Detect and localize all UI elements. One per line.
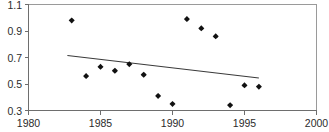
y-tick-marks <box>25 5 29 111</box>
data-point-1984 <box>83 73 89 79</box>
data-point-1996 <box>256 84 262 90</box>
data-point-1993 <box>213 33 219 39</box>
y-tick-label-1.1: 1.1 <box>7 0 22 11</box>
data-point-1986 <box>112 68 118 74</box>
scatter-chart: 1.1 0.9 0.7 0.5 0.3 1980 1985 1990 1995 … <box>0 0 329 132</box>
data-point-1990 <box>170 101 176 107</box>
data-point-1989 <box>155 93 161 99</box>
x-tick-label-1995: 1995 <box>233 117 257 129</box>
data-point-1994 <box>227 102 233 108</box>
x-tick-label-1985: 1985 <box>89 117 113 129</box>
y-tick-labels: 1.1 0.9 0.7 0.5 0.3 <box>7 0 22 117</box>
x-tick-labels: 1980 1985 1990 1995 2000 <box>17 117 329 129</box>
data-point-1983 <box>69 17 75 23</box>
y-tick-label-0.5: 0.5 <box>7 78 22 90</box>
data-point-1991 <box>184 16 190 22</box>
x-tick-label-1990: 1990 <box>161 117 185 129</box>
trend-line <box>67 56 259 79</box>
x-tick-label-1980: 1980 <box>17 117 41 129</box>
y-tick-label-0.7: 0.7 <box>7 52 22 64</box>
data-point-1988 <box>141 72 147 78</box>
data-point-1995 <box>242 82 248 88</box>
x-tick-marks <box>29 111 317 116</box>
data-points <box>69 16 262 108</box>
data-point-1992 <box>198 25 204 31</box>
y-tick-label-0.9: 0.9 <box>7 25 22 37</box>
data-point-1985 <box>98 64 104 70</box>
chart-canvas: 1.1 0.9 0.7 0.5 0.3 1980 1985 1990 1995 … <box>0 0 329 132</box>
y-tick-label-0.3: 0.3 <box>7 105 22 117</box>
x-tick-label-2000: 2000 <box>305 117 329 129</box>
